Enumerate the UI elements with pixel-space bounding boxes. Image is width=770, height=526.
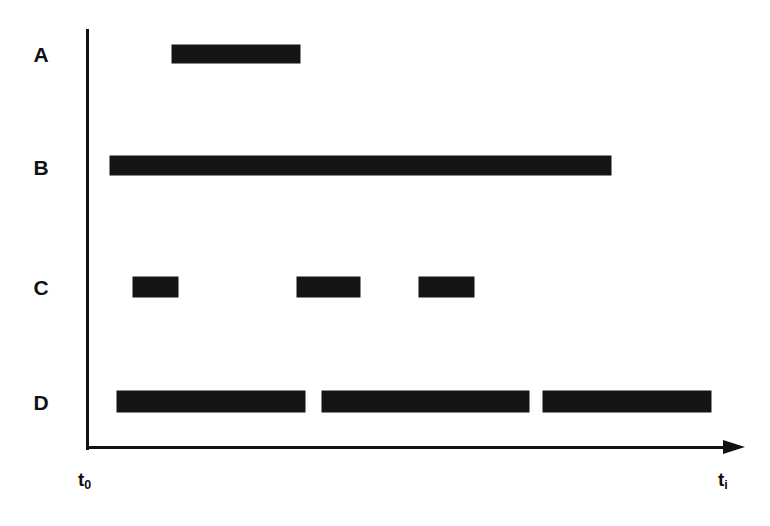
bar-c-2 — [297, 277, 360, 297]
bar-c-3 — [419, 277, 474, 297]
bar-d-1 — [117, 391, 305, 412]
x-axis-start-label-sub: 0 — [84, 478, 91, 492]
y-axis-line — [86, 29, 89, 450]
row-label-d: D — [18, 392, 64, 413]
x-axis-end-label: ti — [718, 470, 728, 489]
row-label-b: B — [18, 157, 64, 178]
bar-a-1 — [172, 45, 299, 63]
x-axis-end-label-sub: i — [724, 478, 727, 492]
x-axis-line — [86, 446, 728, 449]
bar-b-1 — [110, 156, 611, 175]
bar-d-2 — [322, 391, 529, 412]
row-label-c: C — [18, 277, 64, 298]
x-axis-arrowhead-icon — [723, 440, 745, 454]
bar-c-1 — [133, 277, 178, 297]
timeline-chart: A B C D t0 ti — [0, 0, 770, 526]
row-label-a: A — [18, 44, 64, 65]
x-axis-start-label: t0 — [78, 470, 91, 489]
bar-d-3 — [543, 391, 711, 412]
